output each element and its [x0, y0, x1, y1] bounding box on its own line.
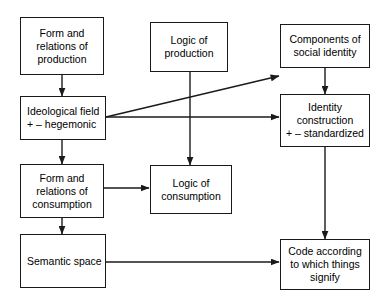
node-identity-construction[interactable]: Identity construction + – standardized — [280, 94, 370, 147]
node-form-and-relations-of-consumption[interactable]: Form and relations of consumption — [20, 164, 104, 218]
node-logic-of-consumption[interactable]: Logic of consumption — [150, 165, 232, 214]
flowchart-diagram: Form and relations of production Logic o… — [0, 0, 381, 306]
node-label: Logic of consumption — [151, 177, 231, 203]
node-label: Components of social identity — [281, 33, 369, 59]
node-semantic-space[interactable]: Semantic space — [20, 234, 106, 288]
edge-ideological-field-to-components-identity — [106, 76, 279, 117]
node-label: Code according to which things signify — [281, 245, 369, 284]
node-label: Identity construction + – standardized — [281, 101, 369, 140]
node-label: Logic of production — [151, 34, 227, 60]
node-label: Form and relations of consumption — [21, 172, 103, 211]
node-ideological-field[interactable]: Ideological field + – hegemonic — [20, 96, 106, 140]
node-form-and-relations-of-production[interactable]: Form and relations of production — [20, 17, 104, 75]
node-code-according-to-which-things-signify[interactable]: Code according to which things signify — [280, 239, 370, 290]
node-label: Form and relations of production — [21, 27, 103, 66]
node-logic-of-production[interactable]: Logic of production — [150, 22, 228, 72]
node-components-of-social-identity[interactable]: Components of social identity — [280, 24, 370, 68]
node-label: Semantic space — [21, 255, 105, 268]
node-label: Ideological field + – hegemonic — [21, 105, 105, 131]
